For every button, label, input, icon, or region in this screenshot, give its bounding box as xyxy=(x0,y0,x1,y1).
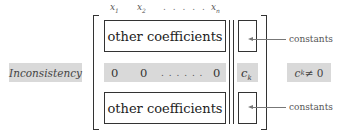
bottom-constants-arrow-line xyxy=(252,107,286,108)
inconsistency-label: Inconsistency xyxy=(9,63,82,82)
column-header-xn: xn xyxy=(211,2,220,14)
column-header-x2: x2 xyxy=(137,2,146,14)
row-constant-ck: ck xyxy=(241,66,252,82)
ck-nonzero-label: ck ≠ 0 xyxy=(287,63,331,82)
row-entry-dots: . . . . . . xyxy=(161,68,203,78)
augment-separator-line-1 xyxy=(229,20,230,124)
bottom-constants-label: constants xyxy=(289,102,333,112)
column-header-x1: x1 xyxy=(110,2,119,14)
top-constants-box xyxy=(238,20,257,52)
row-entry-1: 0 xyxy=(111,66,118,80)
top-coefficients-label: other coefficients xyxy=(107,29,222,44)
matrix-right-bracket xyxy=(261,15,267,130)
row-entry-2: 0 xyxy=(140,66,147,80)
top-constants-label: constants xyxy=(289,34,333,44)
top-constants-arrow-line xyxy=(252,39,286,40)
matrix-left-bracket xyxy=(93,15,99,130)
row-entry-last: 0 xyxy=(213,66,220,80)
column-header-dots: . . . . . xyxy=(163,2,207,12)
augment-separator-line-2 xyxy=(233,20,234,124)
top-coefficients-box: other coefficients xyxy=(104,20,226,52)
bottom-coefficients-box: other coefficients xyxy=(104,92,226,124)
bottom-coefficients-label: other coefficients xyxy=(107,101,222,116)
